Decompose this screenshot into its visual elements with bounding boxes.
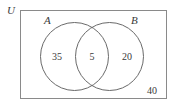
region-value-b-only: 20 xyxy=(122,51,132,62)
region-value-outside: 40 xyxy=(147,85,157,96)
set-a-label: A xyxy=(43,14,51,26)
venn-diagram-figure: U A B 35 5 20 40 xyxy=(0,0,171,106)
set-b-label: B xyxy=(131,14,138,26)
region-value-a-only: 35 xyxy=(52,51,62,62)
venn-diagram-canvas: U A B 35 5 20 40 xyxy=(0,0,171,106)
region-value-intersection: 5 xyxy=(90,51,95,62)
universal-set-label: U xyxy=(7,4,16,16)
